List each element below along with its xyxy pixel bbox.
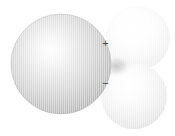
molecule-diagram-canvas xyxy=(0,0,175,136)
molecule-diagram-figure: + − xyxy=(0,0,175,136)
large-left-sphere xyxy=(11,14,111,114)
